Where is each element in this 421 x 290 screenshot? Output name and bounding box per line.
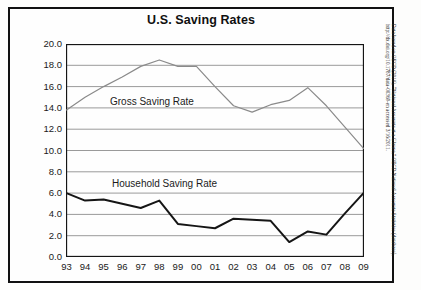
series-label-household-saving-rate: Household Saving Rate	[112, 178, 217, 189]
source-note: Data based on OECD (2010), “National Acc…	[384, 24, 397, 264]
y-axis-tick-label: 20.0	[22, 38, 62, 49]
y-axis-tick-label: 8.0	[22, 166, 62, 177]
chart-canvas	[66, 44, 364, 257]
y-axis-tick-label: 16.0	[22, 81, 62, 92]
series-label-gross-saving-rate: Gross Saving Rate	[110, 96, 194, 107]
series-line-household-saving-rate	[67, 193, 364, 242]
gridlines	[66, 65, 364, 235]
chart-figure: U.S. Saving Rates 20.018.016.014.012.010…	[0, 0, 421, 290]
plot-area	[66, 44, 364, 257]
y-axis-tick-label: 12.0	[22, 123, 62, 134]
x-axis-tick-label: 09	[352, 261, 376, 272]
y-axis-tick-label: 10.0	[22, 145, 62, 156]
y-axis-tick-label: 6.0	[22, 187, 62, 198]
y-axis-tick-labels: 20.018.016.014.012.010.08.06.04.02.00.0	[20, 44, 62, 257]
y-axis-tick-label: 18.0	[22, 59, 62, 70]
page-title: U.S. Saving Rates	[8, 13, 394, 27]
y-axis-tick-label: 2.0	[22, 230, 62, 241]
y-axis-tick-label: 4.0	[22, 208, 62, 219]
y-axis-tick-label: 14.0	[22, 102, 62, 113]
x-axis-tick-labels: 9394959697989900010203040506070809	[66, 261, 364, 277]
